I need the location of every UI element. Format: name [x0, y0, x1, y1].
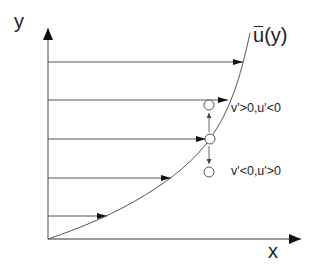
parcel-upper [204, 100, 214, 110]
parcel-lower [204, 167, 214, 177]
annotation-upper: v'>0,u'<0 [231, 101, 281, 115]
annotation-lower: v'<0,u'>0 [231, 164, 281, 178]
curve-label-suffix: (y) [264, 24, 287, 46]
parcel-center [205, 134, 215, 144]
x-axis-label: x [268, 240, 278, 263]
curve-label-u: u [253, 24, 264, 47]
velocity-profile-curve [48, 33, 250, 239]
curve-label: u(y) [253, 24, 287, 47]
y-axis-label: y [14, 10, 24, 33]
